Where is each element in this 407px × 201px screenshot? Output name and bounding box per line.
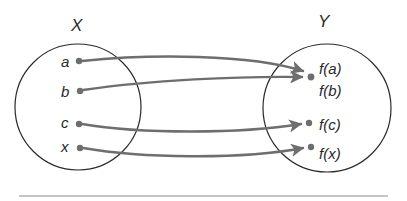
function-mapping-diagram: X Y a b c x f(a) f(b) f(c) f(x) [0, 0, 407, 201]
domain-element-x: x [60, 138, 69, 155]
dot-fx [308, 144, 314, 150]
arrow-a-to-fa [82, 57, 303, 71]
codomain-element-fc: f(c) [319, 116, 341, 133]
domain-element-b: b [61, 83, 69, 100]
codomain-elements: f(a) f(b) f(c) f(x) [306, 60, 342, 162]
domain-label: X [70, 16, 83, 35]
domain-elements: a b c x [60, 53, 83, 155]
dot-fab [308, 74, 315, 81]
dot-fc [306, 120, 312, 126]
arrow-c-to-fc [82, 124, 301, 132]
codomain-element-fb: f(b) [319, 82, 342, 99]
codomain-element-fx: f(x) [319, 145, 341, 162]
domain-element-a: a [61, 53, 69, 70]
arrow-b-to-fb [83, 77, 302, 90]
dot-b [77, 88, 83, 94]
mapping-arrows [82, 57, 303, 157]
codomain-element-fa: f(a) [319, 60, 342, 77]
domain-element-c: c [61, 114, 69, 131]
arrow-x-to-fx [83, 148, 303, 156]
codomain-label: Y [318, 12, 331, 31]
